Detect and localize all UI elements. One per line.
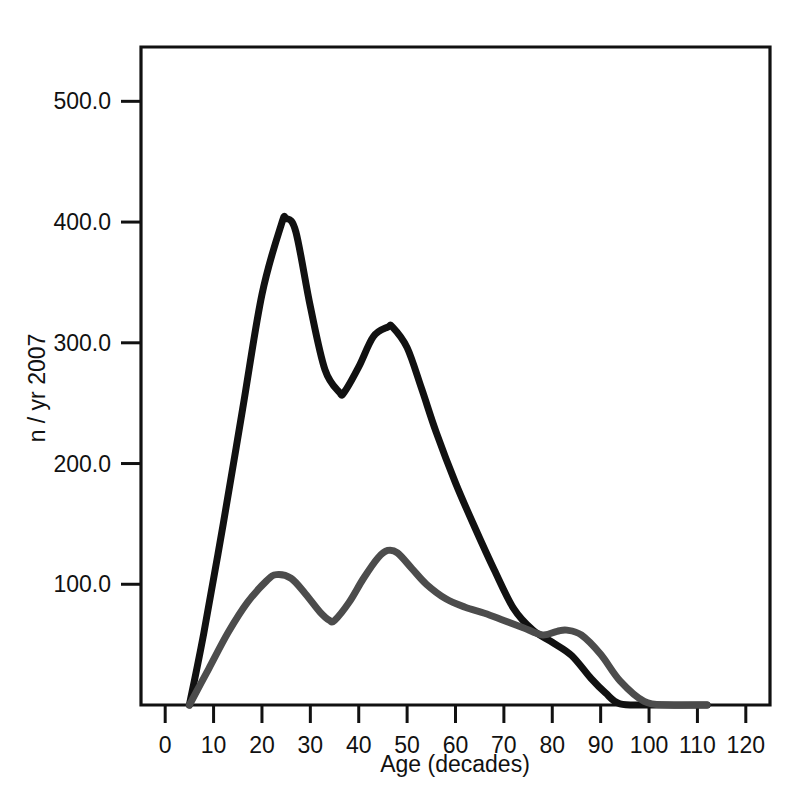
x-tick-label: 110 bbox=[679, 732, 716, 758]
x-axis-title: Age (decades) bbox=[380, 751, 530, 777]
x-tick-label: 90 bbox=[588, 732, 614, 758]
y-axis-title: n / yr 2007 bbox=[24, 334, 50, 443]
x-tick-label: 0 bbox=[159, 732, 172, 758]
chart-container: 100.0200.0300.0400.0500.0 01020304050607… bbox=[0, 0, 803, 802]
series-group bbox=[189, 216, 707, 705]
x-tick-label: 20 bbox=[249, 732, 275, 758]
x-tick-label: 120 bbox=[727, 732, 765, 758]
y-tick-label: 400.0 bbox=[53, 209, 111, 235]
series-gray-curve bbox=[189, 550, 707, 705]
y-tick-label: 100.0 bbox=[53, 571, 111, 597]
line-chart: 100.0200.0300.0400.0500.0 01020304050607… bbox=[0, 0, 803, 802]
y-axis-ticks bbox=[121, 101, 141, 584]
y-axis-tick-labels: 100.0200.0300.0400.0500.0 bbox=[53, 88, 111, 597]
x-tick-label: 100 bbox=[630, 732, 668, 758]
series-black-curve bbox=[189, 216, 707, 705]
x-tick-label: 30 bbox=[298, 732, 324, 758]
y-tick-label: 200.0 bbox=[53, 451, 111, 477]
y-tick-label: 500.0 bbox=[53, 88, 111, 114]
y-tick-label: 300.0 bbox=[53, 330, 111, 356]
x-tick-label: 80 bbox=[539, 732, 565, 758]
x-tick-label: 40 bbox=[346, 732, 372, 758]
x-tick-label: 10 bbox=[201, 732, 227, 758]
